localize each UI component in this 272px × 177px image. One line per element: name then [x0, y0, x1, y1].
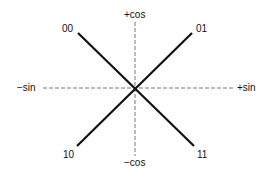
- point-label-01: 01: [196, 24, 207, 34]
- axis-label-minus-cos: −cos: [124, 158, 145, 168]
- axis-label-plus-sin: +sin: [237, 83, 256, 93]
- point-label-10: 10: [63, 150, 74, 160]
- axis-label-plus-cos: +cos: [124, 10, 145, 20]
- constellation-diagram: +cos −cos −sin +sin 00 01 10 11: [0, 0, 272, 177]
- point-label-00: 00: [62, 24, 73, 34]
- diagram-graphics: [0, 0, 272, 177]
- axis-label-minus-sin: −sin: [17, 83, 36, 93]
- point-label-11: 11: [197, 150, 207, 160]
